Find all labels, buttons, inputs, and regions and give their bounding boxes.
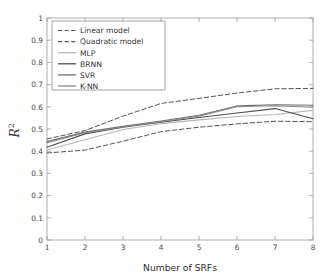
x-axis-title: Number of SRFs — [143, 262, 217, 273]
y-tick-label: 1 — [38, 14, 43, 23]
y-tick-label: 0.1 — [31, 214, 43, 223]
y-tick-label: 0.8 — [31, 58, 43, 67]
y-tick-label: 0.4 — [31, 147, 43, 156]
legend-label-k-nn: K-NN — [80, 82, 98, 91]
x-tick-label: 5 — [197, 243, 202, 252]
x-tick-label: 3 — [121, 243, 126, 252]
x-tick-label: 1 — [45, 243, 50, 252]
y-tick-label: 0.9 — [31, 36, 43, 45]
legend-label-mlp: MLP — [80, 49, 96, 58]
x-tick-label: 8 — [311, 243, 316, 252]
y-tick-label: 0.3 — [31, 169, 43, 178]
y-tick-label: 0 — [38, 236, 43, 245]
chart-legend: Linear modelQuadratic modelMLPBRNNSVRK-N… — [52, 21, 165, 91]
y-tick-label: 0.6 — [31, 103, 43, 112]
x-tick-label: 6 — [235, 243, 240, 252]
legend-label-svr: SVR — [80, 71, 96, 80]
y-tick-label: 0.7 — [31, 80, 43, 89]
x-tick-label: 2 — [83, 243, 88, 252]
chart-figure: 00.10.20.30.40.50.60.70.80.91 12345678 N… — [0, 0, 328, 278]
legend-label-quadratic-model: Quadratic model — [80, 37, 143, 46]
y-axis-title-exponent: 2 — [7, 123, 16, 128]
x-tick-label: 4 — [159, 243, 164, 252]
r-squared-line-chart: 00.10.20.30.40.50.60.70.80.91 12345678 N… — [0, 0, 328, 278]
legend-label-brnn: BRNN — [80, 60, 102, 69]
y-tick-label: 0.2 — [31, 191, 43, 200]
y-tick-label: 0.5 — [31, 125, 43, 134]
y-axis-title-base: R — [8, 128, 22, 138]
x-tick-label: 7 — [273, 243, 278, 252]
legend-label-linear-model: Linear model — [80, 26, 130, 35]
